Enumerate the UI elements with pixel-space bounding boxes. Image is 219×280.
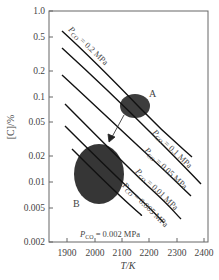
y-tick-0.01: 0.01: [28, 177, 45, 187]
label-b: B: [73, 198, 80, 209]
y-tick-0.002: 0.002: [24, 237, 46, 247]
y-tick-0.02: 0.02: [28, 151, 45, 161]
x-tick-labels: 1900 2000 2100 2200 2300 2400: [58, 248, 214, 258]
y-tick-0.005: 0.005: [24, 203, 46, 213]
y-axis-title: [C]/%: [5, 115, 16, 139]
x-tick-2300: 2300: [168, 248, 187, 258]
x-axis-title: T/K: [120, 260, 136, 271]
y-tick-0.5: 0.5: [33, 32, 45, 42]
region-b: [74, 144, 124, 204]
arrow-a-to-b: [108, 115, 124, 142]
curve-labels: PCO = 0.2 MPa PCO = 0.1 MPa PCO = 0.05 M…: [65, 24, 194, 240]
chart: 1.0 0.5 0.2 0.1 0.05 0.02 0.01 0.005 0.0…: [0, 0, 219, 280]
x-tick-2400: 2400: [195, 248, 214, 258]
y-tick-labels: 1.0 0.5 0.2 0.1 0.05 0.02 0.01 0.005 0.0…: [24, 6, 46, 247]
y-tick-1: 1.0: [33, 6, 45, 16]
x-tick-2100: 2100: [113, 248, 132, 258]
label-a: A: [149, 88, 157, 99]
label-0.2mpa: PCO = 0.2 MPa: [65, 24, 110, 68]
y-tick-0.2: 0.2: [33, 66, 45, 76]
y-axis: [49, 11, 53, 242]
y-tick-0.1: 0.1: [33, 92, 45, 102]
label-0.002mpa: PCO = 0.002 MPa: [79, 229, 140, 240]
x-tick-1900: 1900: [58, 248, 77, 258]
y-tick-0.05: 0.05: [28, 117, 45, 127]
x-tick-2000: 2000: [86, 248, 105, 258]
x-tick-2200: 2200: [140, 248, 159, 258]
